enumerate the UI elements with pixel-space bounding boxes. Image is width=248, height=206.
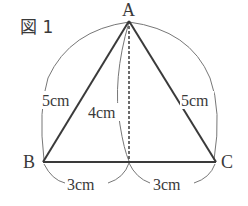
vertex-c-label: C [221,152,233,172]
ac-length-label: 5cm [181,92,209,109]
vertex-a-label: A [122,0,135,20]
ab-length-label: 5cm [42,92,70,109]
bh-length-label: 3cm [67,176,95,193]
vertex-b-label: B [23,152,35,172]
figure-title: 図 1 [20,17,53,37]
arc-height [117,22,129,161]
height-length-label: 4cm [88,104,116,121]
triangle-diagram: 図 1 A B C 5cm 5cm 4cm 3cm 3cm [0,0,248,206]
hc-length-label: 3cm [153,176,181,193]
